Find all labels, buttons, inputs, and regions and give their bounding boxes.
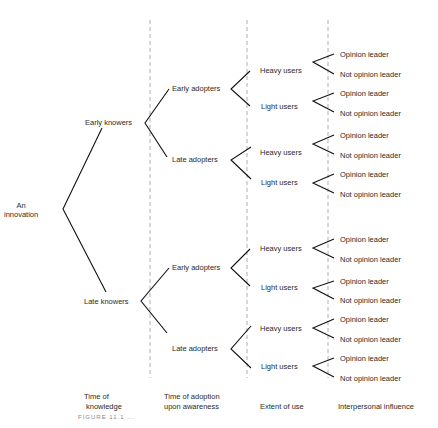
node-early-adopters: Early adopters [172, 84, 220, 93]
tree-lines [0, 0, 438, 428]
axis-label-time-of-adoption: Time of adoption upon awareness [164, 392, 220, 412]
root-label-line1: An [4, 201, 38, 210]
leaf-not-opinion-leader: Not opinion leader [340, 296, 401, 305]
leaf-not-opinion-leader: Not opinion leader [340, 374, 401, 383]
node-light-users: Light users [261, 102, 298, 111]
leaf-opinion-leader: Opinion leader [340, 131, 389, 140]
axis-label-line: Time of adoption [164, 392, 220, 402]
leaf-opinion-leader: Opinion leader [340, 277, 389, 286]
axis-label-line: Time of [84, 392, 122, 402]
axis-label-line: upon awareness [164, 402, 220, 412]
leaf-not-opinion-leader: Not opinion leader [340, 70, 401, 79]
leaf-opinion-leader: Opinion leader [340, 89, 389, 98]
axis-label-extent-of-use: Extent of use [260, 402, 304, 412]
leaf-not-opinion-leader: Not opinion leader [340, 109, 401, 118]
leaf-opinion-leader: Opinion leader [340, 235, 389, 244]
node-light-users: Light users [261, 178, 298, 187]
node-heavy-users: Heavy users [260, 66, 302, 75]
leaf-not-opinion-leader: Not opinion leader [340, 190, 401, 199]
node-early-knowers: Early knowers [85, 118, 132, 127]
node-early-adopters: Early adopters [172, 263, 220, 272]
leaf-opinion-leader: Opinion leader [340, 170, 389, 179]
leaf-opinion-leader: Opinion leader [340, 315, 389, 324]
leaf-not-opinion-leader: Not opinion leader [340, 151, 401, 160]
node-late-adopters: Late adopters [172, 155, 218, 164]
leaf-opinion-leader: Opinion leader [340, 354, 389, 363]
node-heavy-users: Heavy users [260, 244, 302, 253]
axis-label-line: knowledge [84, 402, 122, 412]
axis-label-interpersonal-influence: Interpersonal influence [338, 402, 414, 412]
node-light-users: Light users [261, 362, 298, 371]
figure-caption: FIGURE 11.1 ... [78, 414, 135, 420]
leaf-not-opinion-leader: Not opinion leader [340, 335, 401, 344]
node-heavy-users: Heavy users [260, 148, 302, 157]
node-late-adopters: Late adopters [172, 344, 218, 353]
node-heavy-users: Heavy users [260, 324, 302, 333]
node-light-users: Light users [261, 283, 298, 292]
leaf-not-opinion-leader: Not opinion leader [340, 255, 401, 264]
axis-label-time-of-knowledge: Time of knowledge [84, 392, 122, 412]
root-label-line2: innovation [4, 210, 38, 219]
root-node: An innovation [4, 201, 38, 219]
node-late-knowers: Late knowers [84, 297, 129, 306]
leaf-opinion-leader: Opinion leader [340, 50, 389, 59]
